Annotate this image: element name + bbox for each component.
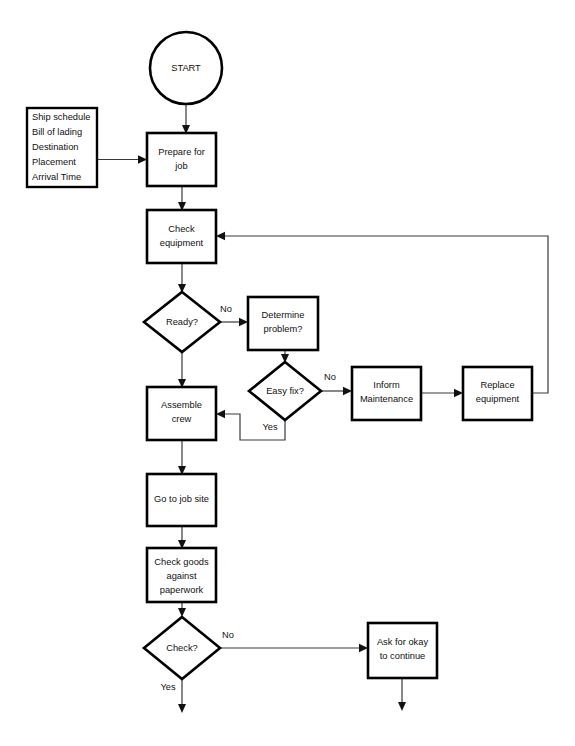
node-check[interactable]: Check? bbox=[144, 617, 220, 679]
edge-ready-to-assemble bbox=[178, 352, 186, 388]
edge-easy-fix-no-to-inform bbox=[321, 387, 352, 396]
check-goods-label-line-1: Check goods bbox=[154, 557, 209, 567]
edge-ready-no-to-determine bbox=[220, 318, 248, 327]
node-easy-fix[interactable]: Easy fix? bbox=[249, 362, 321, 420]
check-label: Check? bbox=[166, 643, 198, 653]
flowchart-svg: Determine problem? --> Inform Maintenanc… bbox=[0, 0, 575, 746]
flowchart-canvas: Determine problem? --> Inform Maintenanc… bbox=[0, 0, 575, 746]
inform-maintenance-label-line-2: Maintenance bbox=[360, 394, 413, 404]
inform-maintenance-label-line-1: Inform bbox=[373, 380, 400, 390]
edge-start-to-prepare bbox=[182, 104, 190, 134]
ready-label: Ready? bbox=[166, 317, 198, 327]
node-determine-problem[interactable]: Determine problem? bbox=[248, 297, 318, 350]
determine-problem-label-line-1: Determine bbox=[262, 310, 305, 320]
prepare-for-job-label-line-1: Prepare for bbox=[158, 147, 205, 157]
start-label: START bbox=[171, 63, 201, 73]
node-inputs[interactable]: Ship schedule Bill of lading Destination… bbox=[27, 108, 97, 187]
edge-check-yes-continue bbox=[178, 679, 186, 713]
prepare-for-job-box[interactable] bbox=[147, 133, 216, 186]
edge-label-ready-no: No bbox=[220, 304, 232, 314]
node-check-goods[interactable]: Check goods against paperwork bbox=[147, 548, 216, 602]
inputs-line-4: Placement bbox=[32, 157, 76, 167]
inputs-line-1: Ship schedule bbox=[32, 112, 90, 122]
edge-label-check-no: No bbox=[222, 630, 234, 640]
node-ask-for-okay[interactable]: Ask for okay to continue bbox=[368, 623, 437, 678]
edge-check-no-to-ask bbox=[220, 644, 368, 653]
ask-for-okay-label-line-1: Ask for okay bbox=[377, 637, 429, 647]
assemble-crew-label-line-1: Assemble bbox=[161, 400, 202, 410]
edge-assemble-to-job-site bbox=[178, 440, 186, 475]
easy-fix-label: Easy fix? bbox=[266, 386, 304, 396]
inputs-line-5: Arrival Time bbox=[32, 172, 81, 182]
assemble-crew-label-line-2: crew bbox=[172, 414, 192, 424]
check-goods-label-line-2: against bbox=[167, 571, 197, 581]
edge-label-easy-fix-yes: Yes bbox=[262, 422, 278, 432]
determine-problem-label-line-2: problem? bbox=[264, 324, 303, 334]
check-equipment-box[interactable] bbox=[147, 210, 216, 263]
replace-equipment-label-line-1: Replace bbox=[480, 380, 514, 390]
check-equipment-label-line-1: Check bbox=[168, 224, 195, 234]
node-check-equipment[interactable]: Check equipment bbox=[147, 210, 216, 263]
edge-prepare-to-check-equipment bbox=[178, 186, 186, 211]
edge-inputs-to-prepare bbox=[97, 155, 147, 164]
inputs-line-2: Bill of lading bbox=[32, 127, 82, 137]
edge-check-goods-to-check bbox=[178, 602, 186, 617]
edge-check-equipment-to-ready bbox=[178, 263, 186, 293]
node-replace-equipment[interactable]: Replace equipment bbox=[463, 367, 532, 420]
inputs-line-3: Destination bbox=[32, 142, 79, 152]
edge-label-check-yes: Yes bbox=[160, 682, 176, 692]
edge-ask-continue-down bbox=[398, 678, 406, 711]
edge-job-site-to-check-goods bbox=[178, 526, 186, 549]
node-go-to-job-site[interactable]: Go to job site bbox=[147, 474, 216, 526]
replace-equipment-label-line-2: equipment bbox=[476, 394, 520, 404]
check-goods-label-line-3: paperwork bbox=[160, 585, 204, 595]
prepare-for-job-label-line-2: job bbox=[174, 161, 187, 171]
node-ready[interactable]: Ready? bbox=[144, 292, 220, 352]
ask-for-okay-label-line-2: to continue bbox=[380, 651, 426, 661]
node-inform-maintenance[interactable]: Inform Maintenance bbox=[352, 367, 421, 420]
node-assemble-crew[interactable]: Assemble crew bbox=[147, 387, 216, 440]
check-equipment-label-line-2: equipment bbox=[160, 238, 204, 248]
node-start[interactable]: START bbox=[150, 32, 222, 104]
edge-inform-to-replace bbox=[421, 389, 463, 398]
node-prepare-for-job[interactable]: Prepare for job bbox=[147, 133, 216, 186]
go-to-job-site-label: Go to job site bbox=[154, 494, 209, 504]
edge-label-easy-fix-no: No bbox=[324, 372, 336, 382]
